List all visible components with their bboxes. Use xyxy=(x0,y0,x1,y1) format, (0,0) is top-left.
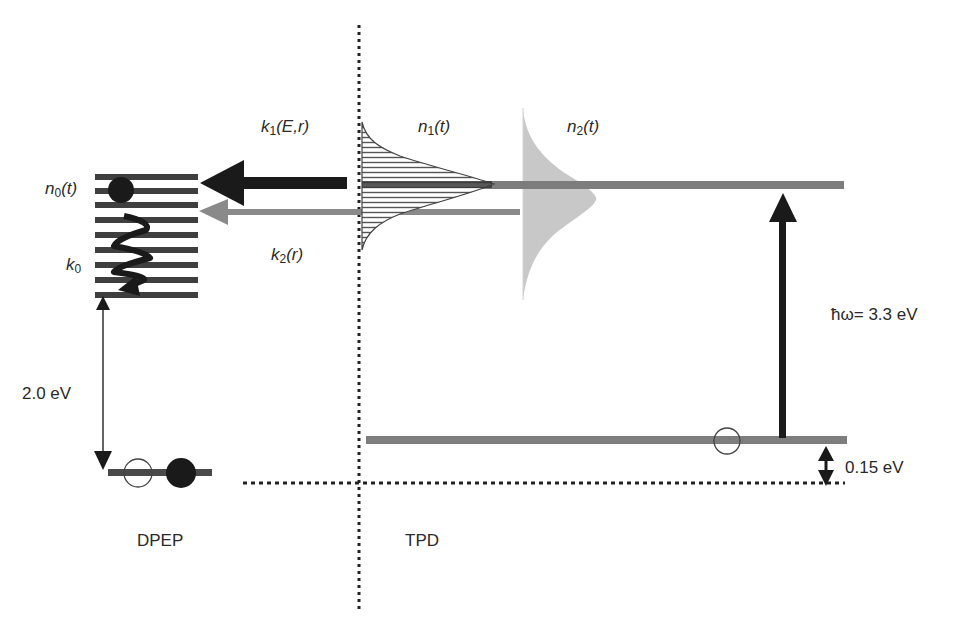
label-k1: k1(E,r) xyxy=(261,118,309,137)
label-gap-2ev: 2.0 eV xyxy=(22,385,71,402)
label-n2: n2(t) xyxy=(567,118,599,137)
label-n0: n0(t) xyxy=(45,180,77,199)
n1-peak-band xyxy=(362,181,492,188)
k1-arrowhead-icon xyxy=(200,160,244,206)
label-n0-arg: (t) xyxy=(61,179,77,198)
label-gap-015ev: 0.15 eV xyxy=(845,459,904,476)
label-n1-arg: (t) xyxy=(434,117,450,136)
label-tpd: TPD xyxy=(405,532,439,549)
label-k1-base: k xyxy=(261,117,270,136)
label-k1-arg: (E,r) xyxy=(276,117,309,136)
label-k0-base: k xyxy=(66,255,75,274)
label-dpep: DPEP xyxy=(137,532,183,549)
label-k0: k0 xyxy=(66,256,81,275)
k1-arrow-shaft xyxy=(240,177,347,189)
arrowhead-down-icon xyxy=(94,451,112,470)
tpd-lower-level xyxy=(366,436,847,444)
electron-icon xyxy=(108,177,134,203)
label-k2: k2(r) xyxy=(271,246,303,265)
label-k2-base: k xyxy=(271,245,280,264)
photon-arrowhead-icon xyxy=(769,193,797,222)
label-n1: n1(t) xyxy=(418,118,450,137)
label-photon-energy: ħω= 3.3 eV xyxy=(831,306,918,323)
label-n2-arg: (t) xyxy=(583,117,599,136)
arrowhead-up-icon xyxy=(818,446,834,461)
electron-icon xyxy=(166,458,196,488)
label-k2-arg: (r) xyxy=(286,245,303,264)
arrowhead-up-icon xyxy=(96,296,110,310)
label-k0-sub: 0 xyxy=(75,262,82,276)
k2-arrowhead-icon xyxy=(199,199,228,225)
photon-arrow-shaft xyxy=(779,218,786,438)
